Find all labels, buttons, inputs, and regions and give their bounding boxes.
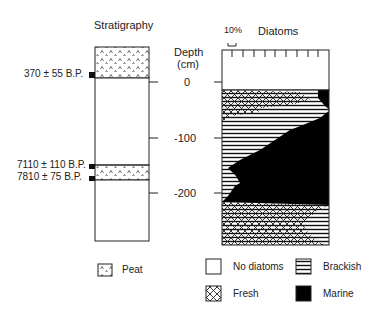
scale-label: 10% <box>224 25 242 35</box>
legend-marine: Marine <box>323 288 354 299</box>
depth-axis-title: Depth <box>174 46 203 58</box>
depth-tick-label: -100 <box>174 132 196 144</box>
depth-tick-label: -200 <box>174 187 196 199</box>
legend-no-diatoms: No diatoms <box>233 261 284 272</box>
stratigraphy-title: Stratigraphy <box>94 19 153 31</box>
diatom-column <box>214 43 330 245</box>
date-label: 7110 ± 110 B.P. <box>17 159 86 170</box>
legend-brackish: Brackish <box>323 261 361 272</box>
diatoms-title: Diatoms <box>258 25 298 37</box>
stratigraphy-column <box>89 47 158 241</box>
legend-fresh: Fresh <box>233 288 259 299</box>
date-label: 370 ± 55 B.P. <box>24 68 83 79</box>
depth-tick-label: 0 <box>184 76 190 88</box>
legend-peat: Peat <box>122 264 143 275</box>
depth-axis-unit: (cm) <box>177 58 199 70</box>
date-label: 7810 ± 75 B.P. <box>17 171 82 182</box>
